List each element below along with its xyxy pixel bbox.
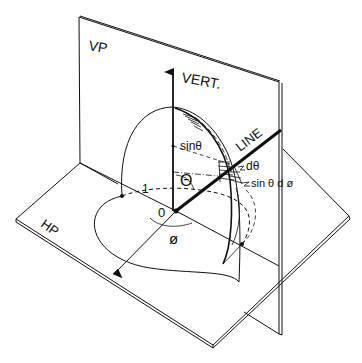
vert-label: VERT. — [180, 69, 222, 92]
spherical-coordinates-diagram: VP HP VERT. LINE sinθ Θ dθ sin θ d ø ø 1… — [0, 0, 362, 363]
line-label: LINE — [233, 125, 265, 155]
d-theta-label: dθ — [246, 159, 260, 173]
base-point-dot — [120, 194, 124, 198]
sin-theta-dot — [172, 145, 175, 148]
sin-theta-d-phi-label: sin θ d ø — [251, 177, 293, 189]
horizontal-axis-arrow — [116, 211, 176, 272]
phi-label: ø — [169, 230, 178, 247]
origin-dot — [174, 209, 179, 214]
vp-label: VP — [87, 37, 108, 56]
theta-label: Θ — [180, 172, 192, 189]
origin-label: 0 — [158, 205, 165, 220]
meridian-foot-dot — [240, 242, 244, 246]
sin-theta-label: sinθ — [180, 139, 202, 153]
unit-radius-label: 1 — [142, 182, 149, 196]
